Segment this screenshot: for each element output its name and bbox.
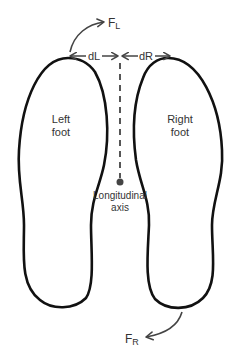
foot-force-diagram: Left foot Right foot Longitudinal axis d… (0, 0, 231, 350)
right-foot-outline (134, 58, 222, 308)
force-right-arrow (146, 312, 182, 337)
force-left-label: FL (108, 16, 120, 31)
force-left-arrow (70, 22, 104, 52)
axis-label-line2: axis (111, 202, 129, 213)
dl-label: dL (88, 50, 100, 62)
axis-label-line1: Longitudinal (93, 190, 147, 201)
right-foot-label-line2: foot (171, 126, 189, 138)
dr-label: dR (139, 50, 153, 62)
left-foot-outline (19, 58, 108, 307)
force-right-label: FR (125, 332, 139, 347)
left-foot-label-line2: foot (52, 126, 70, 138)
axis-origin-dot (117, 179, 124, 186)
left-foot-label-line1: Left (52, 113, 70, 125)
right-foot-label-line1: Right (167, 113, 193, 125)
